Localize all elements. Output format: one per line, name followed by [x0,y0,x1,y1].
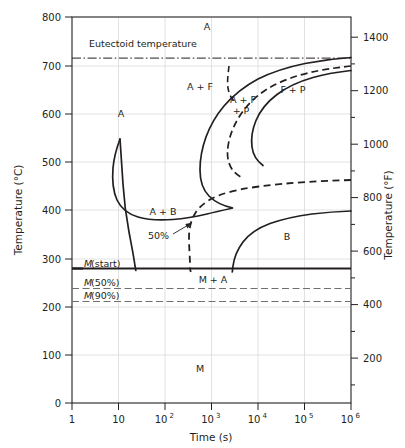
grid-lines [72,17,351,403]
left-tick-300: 300 [42,254,61,265]
transformation-start-curve [113,58,351,220]
left-tick-400: 400 [42,205,61,216]
left-axis-title: Temperature (°C) [12,165,24,257]
region-label-bainite: B [284,231,291,242]
m-90-label-suffix: (90%) [91,290,120,301]
region-label-a-f-p-line2: + P [233,105,250,116]
bottom-tick-1e3-exponent: 3 [216,412,220,420]
right-tick-1200: 1200 [363,85,388,96]
region-label-austenite-ferrite: A + F [187,81,213,92]
bottom-tick-1e3: 10 [201,414,214,425]
bottom-tick-1: 1 [69,414,75,425]
left-tick-500: 500 [42,157,61,168]
left-axis-tick-labels: 0 100 200 300 400 500 600 700 800 [42,12,61,409]
right-axis-title: Temperature (°F) [382,170,394,260]
bottom-tick-1e2: 10 [155,414,168,425]
fifty-percent-curve-upper [228,66,352,177]
bottom-tick-1e5: 10 [294,414,307,425]
bottom-tick-1e6-exponent: 6 [356,412,361,420]
right-axis-ticks [351,37,358,385]
right-tick-400: 400 [363,299,382,310]
bottom-axis-ticks [72,403,351,410]
bottom-tick-10: 10 [112,414,125,425]
bottom-axis-tick-labels: 1 10 10 2 10 3 10 4 10 5 10 6 [69,412,361,425]
ttt-diagram-figure: 0 100 200 300 400 500 600 700 800 200 40… [0,0,405,448]
m-start-label: M (start) [84,258,121,269]
left-tick-800: 800 [42,12,61,23]
right-tick-1000: 1000 [363,139,388,150]
right-tick-1400: 1400 [363,32,388,43]
right-tick-800: 800 [363,192,382,203]
left-tick-100: 100 [42,350,61,361]
left-axis-ticks [65,17,72,403]
bottom-tick-1e4: 10 [248,414,261,425]
right-tick-200: 200 [363,353,382,364]
right-tick-600: 600 [363,246,382,257]
region-label-martensite-austenite: M + A [199,274,228,285]
region-label-ferrite-pearlite: F + P [280,84,305,95]
fifty-percent-curve-lower [189,180,351,272]
region-label-austenite-top: A [204,21,211,32]
m-50-label: M (50%) [84,277,120,288]
ttt-diagram-svg: 0 100 200 300 400 500 600 700 800 200 40… [0,0,405,448]
region-label-martensite: M [196,363,204,374]
m-start-label-suffix: (start) [91,258,121,269]
bottom-tick-1e5-exponent: 5 [309,412,313,420]
fifty-percent-annotation-label: 50% [148,230,169,241]
region-label-austenite-bainite: A + B [149,206,176,217]
bottom-tick-1e2-exponent: 2 [170,412,174,420]
bottom-tick-1e6: 10 [341,414,354,425]
bottom-tick-1e4-exponent: 4 [263,412,268,420]
m-90-label: M (90%) [84,290,120,301]
transformation-finish-curve-lower [232,211,351,272]
eutectoid-temperature-label: Eutectoid temperature [89,38,197,49]
region-label-austenite-left: A [118,108,125,119]
left-tick-600: 600 [42,109,61,120]
m-50-label-suffix: (50%) [91,277,120,288]
bottom-axis-title: Time (s) [189,431,233,443]
left-tick-700: 700 [42,61,61,72]
left-tick-200: 200 [42,302,61,313]
left-tick-0: 0 [55,398,61,409]
region-label-a-f-p-line1: A + F [230,94,256,105]
transformation-start-curve-lower [120,139,136,271]
